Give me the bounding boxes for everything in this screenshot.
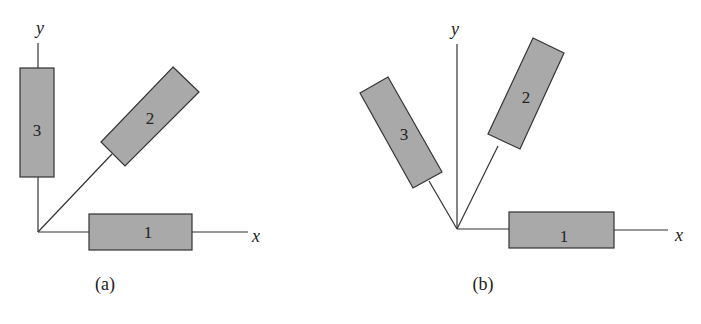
y-axis-label: y [34, 18, 44, 38]
bar-2-axis [457, 146, 498, 229]
bar-3-label: 3 [400, 125, 409, 144]
bar-1-label: 1 [560, 227, 569, 246]
panel-a [20, 43, 248, 250]
bar-3-label: 3 [33, 121, 42, 140]
bar-2-label: 2 [146, 109, 155, 128]
caption-a: (a) [95, 274, 115, 295]
bar-3-axis [429, 181, 457, 229]
bar-1-label: 1 [144, 223, 153, 242]
bar-2-label: 2 [522, 88, 531, 107]
x-axis-label: x [251, 226, 260, 246]
bar-1 [89, 214, 192, 250]
caption-b: (b) [473, 274, 494, 295]
panel-a-labels: y x 1 2 3 (a) [33, 18, 260, 295]
x-axis-label: x [674, 225, 683, 245]
y-axis-label: y [449, 19, 459, 39]
diagram-canvas: y x 1 2 3 (a) y x 1 2 3 (b) [0, 0, 701, 324]
